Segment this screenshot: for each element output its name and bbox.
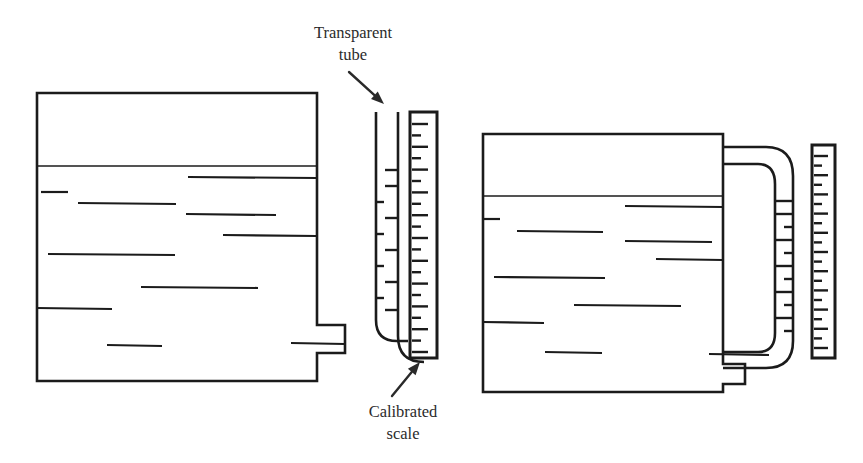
liquid-hatch-line	[656, 259, 723, 260]
liquid-hatch-line	[291, 343, 345, 344]
right-tube-graduations	[775, 201, 793, 331]
left-tube-graduations	[376, 170, 398, 310]
liquid-hatch-line	[107, 345, 162, 346]
left-sight-tube-assembly	[37, 93, 437, 381]
liquid-hatch-line	[483, 322, 544, 323]
figure-root: Transparent tube Calibrated scale	[0, 0, 863, 463]
liquid-hatch-line	[709, 354, 769, 355]
left-tube-outer-wall	[376, 112, 408, 341]
calibrated-scale-label-line2: scale	[387, 424, 420, 443]
calibrated-scale-label-line1: Calibrated	[369, 402, 438, 421]
liquid-hatch-line	[545, 352, 602, 353]
right-tube-inner-wall	[723, 164, 775, 352]
right-tube-outer-wall	[723, 147, 793, 368]
transparent-tube-label-line2: tube	[339, 45, 367, 64]
liquid-hatch-line	[625, 241, 712, 242]
liquid-hatch-line	[141, 287, 258, 288]
left-calibrated-scale-body	[410, 112, 437, 358]
liquid-hatch-line	[625, 206, 723, 207]
transparent-tube-label-line1: Transparent	[314, 23, 393, 42]
left-vessel-outline	[37, 93, 345, 381]
liquid-hatch-line	[37, 308, 112, 309]
liquid-hatch-line	[517, 231, 603, 232]
annotation-transparent-tube: Transparent tube	[314, 23, 393, 104]
liquid-hatch-line	[78, 203, 176, 204]
liquid-hatch-line	[188, 177, 317, 178]
calibrated-scale-leader-line	[392, 372, 412, 396]
liquid-level-diagram: Transparent tube Calibrated scale	[0, 0, 863, 463]
right-sight-tube-assembly	[483, 134, 835, 392]
liquid-hatch-line	[223, 235, 317, 236]
annotation-calibrated-scale: Calibrated scale	[369, 362, 438, 443]
liquid-hatch-line	[494, 277, 605, 278]
liquid-hatch-line	[48, 254, 175, 255]
liquid-hatch-line	[574, 305, 681, 306]
right-vessel-outline	[483, 134, 745, 392]
transparent-tube-leader-line	[349, 72, 374, 95]
liquid-hatch-line	[186, 214, 276, 215]
